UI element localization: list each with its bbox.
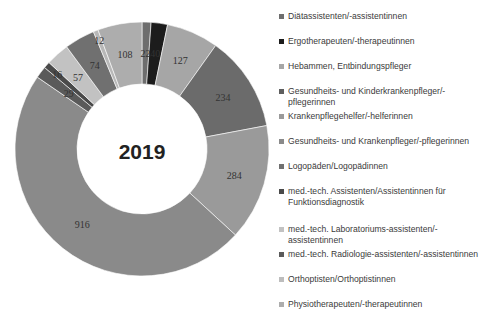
legend-marker-icon: [279, 139, 284, 144]
legend-item: Orthoptisten/Orthoptistinnen: [279, 274, 487, 285]
legend-marker-icon: [279, 89, 284, 94]
legend-label: Orthoptisten/Orthoptistinnen: [288, 274, 487, 285]
slice-value-label: 74: [90, 60, 100, 71]
legend-marker-icon: [279, 39, 284, 44]
slice-value-label: 57: [73, 72, 83, 83]
legend-marker-icon: [279, 14, 284, 19]
chart-center-title: 2019: [119, 140, 166, 163]
legend-item: Diätassistenten/-assistentinnen: [279, 11, 487, 22]
slice-value-label: 40: [150, 48, 160, 59]
legend-item: Logopäden/Logopädinnen: [279, 161, 487, 172]
legend-label: med.-tech. Assistenten/Assistentinnen fü…: [288, 186, 487, 208]
legend-marker-icon: [279, 302, 284, 307]
slice-value-label: 22: [140, 48, 150, 59]
legend-label: Hebammen, Entbindungspfleger: [288, 61, 487, 72]
donut-chart: 22401272342849162916577412108 2019: [0, 0, 290, 318]
legend-marker-icon: [279, 277, 284, 282]
legend-marker-icon: [279, 227, 284, 232]
legend-label: Logopäden/Logopädinnen: [288, 161, 487, 172]
legend-label: Gesundheits- und Kinderkrankenpfleger/-p…: [288, 86, 487, 108]
legend-label: Physiotherapeuten/-therapeutinnen: [288, 299, 487, 310]
slice-value-label: 16: [52, 69, 62, 80]
slice-value-label: 234: [215, 92, 230, 103]
legend-marker-icon: [279, 252, 284, 257]
legend-label: Ergotherapeuten/-therapeutinnen: [288, 36, 487, 47]
legend-item: med.-tech. Laboratoriums-assistenten/-as…: [279, 224, 487, 246]
legend-item: Gesundheits- und Kinderkrankenpfleger/-p…: [279, 86, 487, 108]
legend-marker-icon: [279, 64, 284, 69]
legend-label: Krankenpflegehelfer/-helferinnen: [288, 111, 487, 122]
legend-label: Gesundheits- und Krankenpfleger/-pfleger…: [288, 136, 487, 147]
legend-item: Gesundheits- und Krankenpfleger/-pfleger…: [279, 136, 487, 147]
slice-value-label: 12: [94, 35, 104, 46]
slice-value-label: 108: [118, 49, 133, 60]
legend-item: med.-tech. Radiologie-assistenten/-assis…: [279, 249, 487, 260]
slice-value-label: 284: [227, 170, 242, 181]
legend-item: Ergotherapeuten/-therapeutinnen: [279, 36, 487, 47]
legend-label: Diätassistenten/-assistentinnen: [288, 11, 487, 22]
legend-item: med.-tech. Assistenten/Assistentinnen fü…: [279, 186, 487, 208]
legend-item: Krankenpflegehelfer/-helferinnen: [279, 111, 487, 122]
legend-marker-icon: [279, 114, 284, 119]
slice-value-label: 29: [64, 88, 74, 99]
legend-item: Physiotherapeuten/-therapeutinnen: [279, 299, 487, 310]
legend-label: med.-tech. Laboratoriums-assistenten/-as…: [288, 224, 487, 246]
legend-label: med.-tech. Radiologie-assistenten/-assis…: [288, 249, 487, 260]
legend-marker-icon: [279, 164, 284, 169]
legend-item: Hebammen, Entbindungspfleger: [279, 61, 487, 72]
slice-value-label: 127: [173, 55, 188, 66]
slice-value-label: 916: [75, 219, 90, 230]
legend-marker-icon: [279, 189, 284, 194]
